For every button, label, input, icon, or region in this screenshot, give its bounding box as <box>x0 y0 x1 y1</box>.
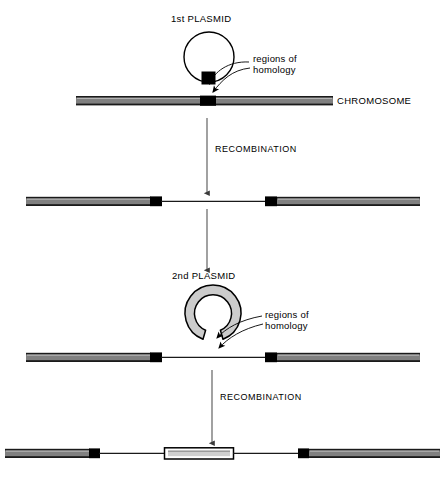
diagram-canvas: 1st PLASMID CHROMOSOME regions of homolo… <box>0 0 446 484</box>
stage3-right-homology-block <box>265 352 277 362</box>
stage3-right-arm <box>265 352 420 362</box>
stage2-right-highlight <box>278 199 419 200</box>
stage4-right-highlight <box>310 451 439 452</box>
stage4-left-arm <box>5 448 100 458</box>
recombination-label-1: RECOMBINATION <box>215 144 297 154</box>
stage3-left-edge-top <box>26 353 151 355</box>
stage4-right-edge-bottom <box>309 456 440 458</box>
homology-label-top-line2: homology <box>253 64 296 75</box>
stage4-right-arm <box>298 448 440 458</box>
chromosome-bar <box>76 96 333 106</box>
stage2-left-highlight <box>27 199 150 200</box>
stage3-left-homology-block <box>150 352 162 362</box>
chromosome-homology-block <box>200 96 216 106</box>
canvas-background <box>0 0 446 484</box>
stage4-left-highlight <box>6 451 89 452</box>
homology-label-bottom-line2: homology <box>265 320 308 331</box>
stage4-right-homology-block <box>298 448 309 458</box>
stage-4-final-product <box>5 448 440 459</box>
stage4-left-homology-block <box>89 448 100 458</box>
stage3-left-highlight <box>27 355 150 356</box>
stage4-right-edge-top <box>309 449 440 451</box>
plasmid-homology-block <box>202 72 216 85</box>
stage2-left-edge-bottom <box>26 204 151 206</box>
stage2-right-edge-bottom <box>277 204 420 206</box>
recombination-diagram: 1st PLASMID CHROMOSOME regions of homolo… <box>0 0 446 484</box>
stage3-right-highlight <box>278 355 419 356</box>
stage2-left-arm <box>26 196 162 206</box>
stage2-right-homology-block <box>265 196 277 206</box>
stage2-left-homology-block <box>150 196 162 206</box>
stage2-right-arm <box>265 196 420 206</box>
stage4-integrated-plasmid-segment <box>165 448 234 459</box>
stage2-left-edge-top <box>26 197 151 199</box>
stage3-left-arm <box>26 352 162 362</box>
stage4-left-edge-bottom <box>5 456 90 458</box>
integrated-segment-fill <box>168 451 230 456</box>
stage3-right-edge-top <box>277 353 420 355</box>
homology-label-bottom-line1: regions of <box>265 309 309 320</box>
stage4-left-edge-top <box>5 449 90 451</box>
second-plasmid-label: 2nd PLASMID <box>172 270 236 281</box>
first-plasmid-label: 1st PLASMID <box>171 13 231 24</box>
stage3-right-edge-bottom <box>277 360 420 362</box>
chromosome-label: CHROMOSOME <box>337 95 411 106</box>
stage2-right-edge-top <box>277 197 420 199</box>
recombination-label-2: RECOMBINATION <box>220 392 302 402</box>
homology-label-top-line1: regions of <box>253 53 297 64</box>
stage3-left-edge-bottom <box>26 360 151 362</box>
integrated-segment-shade <box>168 451 230 452</box>
